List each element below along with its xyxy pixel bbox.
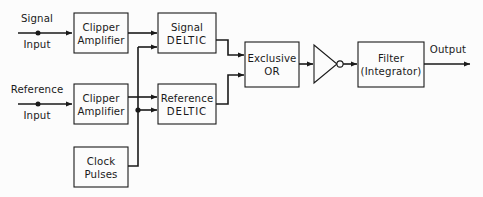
clock-bus-junction-dot bbox=[135, 107, 140, 112]
block-label-line1: Clock bbox=[87, 156, 115, 167]
block-label-line1: Reference bbox=[161, 93, 214, 104]
block-label-line2: (Integrator) bbox=[361, 66, 422, 77]
block-label-line1: Clipper bbox=[82, 22, 120, 33]
wire-clock-bus bbox=[128, 47, 138, 166]
block-label-line1: Clipper bbox=[82, 93, 120, 104]
inverter-gate bbox=[314, 45, 343, 83]
block-reference-clipper-amplifier: Clipper Amplifier bbox=[74, 84, 128, 124]
block-clock-pulses: Clock Pulses bbox=[74, 147, 128, 187]
block-signal-deltic: Signal DELTIC bbox=[158, 13, 216, 53]
block-reference-deltic: Reference DELTIC bbox=[158, 84, 216, 124]
block-signal-clipper-amplifier: Clipper Amplifier bbox=[74, 13, 128, 53]
block-label-line1: Exclusive bbox=[248, 53, 297, 64]
wire-reference-deltic-to-xor bbox=[216, 75, 244, 104]
diagram-canvas: Clipper Amplifier Clipper Amplifier Sign… bbox=[0, 0, 483, 197]
block-label-line2: Amplifier bbox=[77, 106, 125, 117]
port-label-line2: Input bbox=[23, 39, 50, 50]
block-label-line2: Pulses bbox=[84, 169, 117, 180]
block-outline bbox=[158, 13, 216, 53]
block-label-line1: Filter bbox=[378, 53, 405, 64]
block-outline bbox=[358, 42, 424, 87]
block-label-line2: OR bbox=[264, 66, 279, 77]
block-label-line2: DELTIC bbox=[167, 35, 207, 46]
block-label-line2: DELTIC bbox=[167, 106, 207, 117]
port-label-line1: Reference bbox=[11, 84, 64, 95]
block-outline bbox=[74, 147, 128, 187]
block-outline bbox=[74, 13, 128, 53]
block-label-line2: Amplifier bbox=[77, 35, 125, 46]
block-outline bbox=[245, 42, 299, 87]
inverter-triangle-icon bbox=[314, 45, 337, 83]
block-label-line1: Signal bbox=[171, 22, 203, 33]
signal-input-terminal-dot bbox=[36, 31, 41, 36]
reference-input-terminal-dot bbox=[36, 102, 41, 107]
port-label-line1: Signal bbox=[21, 13, 53, 24]
block-exclusive-or: Exclusive OR bbox=[245, 42, 299, 87]
output-label: Output bbox=[430, 44, 466, 55]
block-outline bbox=[74, 84, 128, 124]
block-diagram: Clipper Amplifier Clipper Amplifier Sign… bbox=[0, 0, 483, 197]
port-output: Output bbox=[430, 44, 466, 55]
port-label-line2: Input bbox=[23, 110, 50, 121]
block-filter-integrator: Filter (Integrator) bbox=[358, 42, 424, 87]
block-outline bbox=[158, 84, 216, 124]
wire-signal-deltic-to-xor bbox=[216, 40, 244, 55]
inverter-bubble-icon bbox=[337, 61, 343, 67]
